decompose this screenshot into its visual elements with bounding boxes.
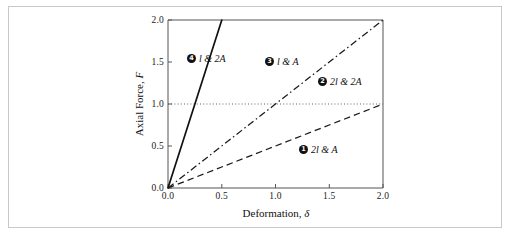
x-axis-ticks bbox=[168, 184, 383, 188]
curve-label-text-3: l & A bbox=[277, 56, 298, 67]
y-tick-label-1: 0.5 bbox=[146, 141, 164, 151]
x-tick-label-2: 1.0 bbox=[269, 191, 281, 201]
y-tick-label-3: 1.5 bbox=[146, 57, 164, 67]
curve-label-text-4: l & 2A bbox=[199, 53, 226, 64]
figure-root: 0.0 0.5 1.0 1.5 2.0 0.0 0.5 1.0 1.5 2.0 … bbox=[0, 0, 518, 245]
curve-label-4: 4 l & 2A bbox=[187, 53, 226, 64]
curve-marker-badge-2: 2 bbox=[318, 77, 327, 86]
curve-label-3: 3 l & A bbox=[265, 56, 298, 67]
curve-label-2: 2 2l & 2A bbox=[318, 76, 362, 87]
x-axis-title: Deformation, δ bbox=[243, 207, 310, 219]
curve-label-text-2: 2l & 2A bbox=[330, 76, 362, 87]
curve-marker-badge-1: 1 bbox=[299, 145, 308, 154]
y-axis-title-symbol: F bbox=[133, 72, 145, 79]
x-tick-label-1: 0.5 bbox=[216, 191, 228, 201]
series-line-1-2l-and-a bbox=[168, 104, 383, 188]
x-axis-title-symbol: δ bbox=[304, 207, 309, 219]
curve-label-1: 1 2l & A bbox=[299, 144, 337, 155]
y-tick-label-2: 1.0 bbox=[146, 99, 164, 109]
x-tick-label-3: 1.5 bbox=[323, 191, 335, 201]
x-tick-label-0: 0.0 bbox=[162, 191, 174, 201]
curve-label-text-1: 2l & A bbox=[311, 144, 337, 155]
x-axis-title-text: Deformation, bbox=[243, 207, 302, 219]
y-tick-label-4: 2.0 bbox=[146, 15, 164, 25]
y-axis-title-text: Axial Force, bbox=[133, 81, 145, 136]
y-axis-title: Axial Force, F bbox=[133, 72, 145, 136]
curve-marker-badge-4: 4 bbox=[187, 54, 196, 63]
curve-marker-badge-3: 3 bbox=[265, 57, 274, 66]
x-tick-label-4: 2.0 bbox=[377, 191, 389, 201]
